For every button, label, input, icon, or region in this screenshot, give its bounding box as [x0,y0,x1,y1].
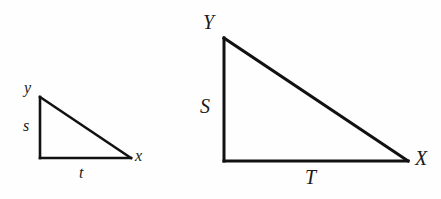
small-triangle-hypotenuse [40,97,131,158]
triangles-drawing [0,0,441,199]
similar-triangles-figure: y s t x Y S T X [0,0,441,199]
large-triangle-far-vertex-label: X [415,148,427,168]
large-triangle-shape [224,38,408,161]
small-triangle-apex-label: y [24,80,31,96]
small-triangle-shape [40,97,131,158]
large-triangle-hypotenuse [224,38,408,161]
small-triangle-vertical-leg-label: s [23,118,29,134]
large-triangle-horizontal-leg-label: T [305,167,316,187]
large-triangle-apex-label: Y [203,12,214,32]
small-triangle-horizontal-leg-label: t [79,165,83,181]
large-triangle-vertical-leg-label: S [200,96,210,116]
small-triangle-far-vertex-label: x [135,148,142,164]
